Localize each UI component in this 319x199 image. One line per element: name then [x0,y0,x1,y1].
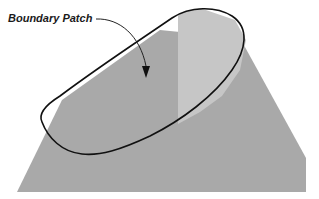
cone-surface [17,30,306,192]
boundary-patch-diagram [0,0,319,199]
boundary-patch-label: Boundary Patch [8,12,92,24]
